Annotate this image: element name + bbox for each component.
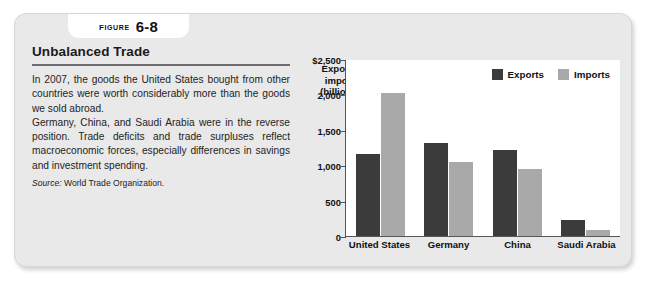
legend-item-imports: Imports [558, 69, 610, 80]
source-text: World Trade Organization. [64, 178, 164, 188]
bar-imports [518, 169, 542, 236]
bar-imports [449, 162, 473, 236]
y-axis-tick-labels: $2,5002,0001,5001,0005000 [301, 60, 341, 237]
y-tick-label: 2,000 [301, 90, 341, 101]
source-label: Source: [32, 178, 62, 188]
bar-groups [346, 60, 620, 236]
bar-exports [356, 154, 380, 236]
bar-exports [424, 143, 448, 236]
bar-exports [493, 150, 517, 236]
x-axis-tick-labels: United StatesGermanyChinaSaudi Arabia [345, 239, 621, 250]
figure-number-text: 6-8 [136, 18, 158, 35]
y-tick-label: $2,500 [301, 55, 341, 66]
y-tick-label: 1,000 [301, 161, 341, 172]
bar-group [346, 60, 415, 236]
title-divider [32, 64, 290, 66]
figure-number-tab: FIGURE 6-8 [68, 14, 189, 38]
x-tick-label: China [483, 239, 552, 250]
figure-panel: FIGURE 6-8 Unbalanced Trade In 2007, the… [14, 13, 632, 267]
figure-label-text: FIGURE [99, 20, 130, 32]
bar-group [483, 60, 552, 236]
legend-swatch-exports [492, 69, 503, 80]
bar-exports [561, 220, 585, 236]
y-tick-label: 0 [301, 232, 341, 243]
chart-legend: ExportsImports [492, 69, 610, 80]
bar-imports [586, 230, 610, 236]
x-axis-line [345, 236, 620, 237]
figure-paragraph-1: In 2007, the goods the United States bou… [32, 73, 290, 116]
legend-swatch-imports [558, 69, 569, 80]
legend-label: Exports [508, 69, 544, 80]
y-tick-mark [341, 237, 346, 238]
legend-item-exports: Exports [492, 69, 544, 80]
x-tick-label: Germany [414, 239, 483, 250]
figure-source: Source: World Trade Organization. [32, 178, 290, 189]
figure-screenshot: FIGURE 6-8 Unbalanced Trade In 2007, the… [0, 0, 646, 290]
figure-paragraph-2: Germany, China, and Saudi Arabia were in… [32, 116, 290, 173]
bar-group [415, 60, 484, 236]
x-tick-label: United States [345, 239, 414, 250]
legend-label: Imports [574, 69, 610, 80]
x-tick-label: Saudi Arabia [552, 239, 621, 250]
figure-title: Unbalanced Trade [32, 44, 290, 59]
bar-group [552, 60, 621, 236]
plot-area: $2,5002,0001,5001,0005000 [345, 60, 620, 237]
bar-chart: Exports, imports (billions) $2,5002,0001… [302, 49, 620, 254]
y-tick-label: 500 [301, 196, 341, 207]
y-tick-label: 1,500 [301, 125, 341, 136]
bar-imports [381, 93, 405, 236]
figure-text-column: Unbalanced Trade In 2007, the goods the … [32, 44, 290, 189]
